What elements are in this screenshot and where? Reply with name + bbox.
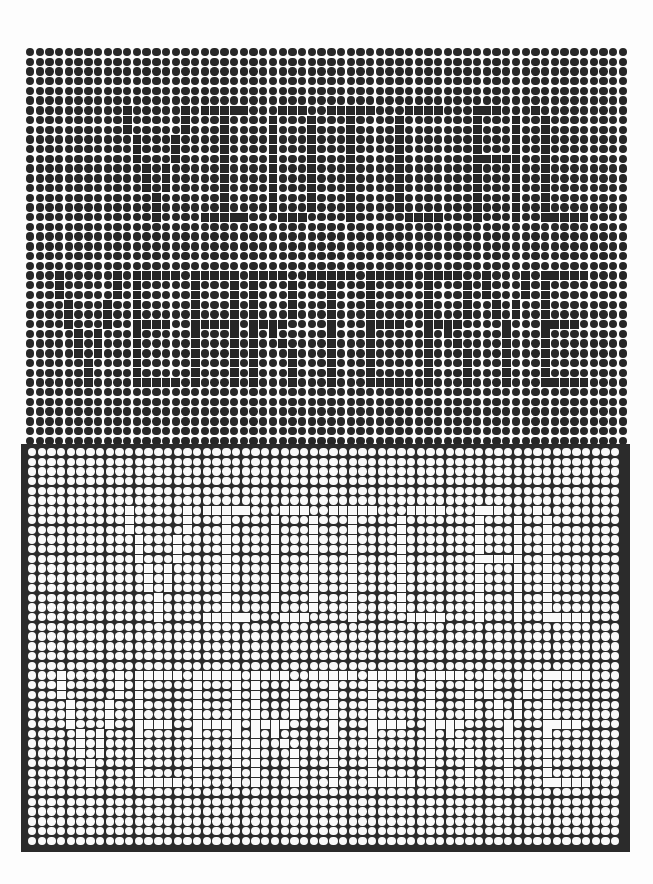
grid-square (397, 778, 406, 787)
grid-dot (106, 623, 114, 631)
grid-dot (453, 252, 461, 260)
grid-dot (560, 87, 568, 95)
grid-dot (415, 67, 423, 75)
grid-dot (74, 388, 82, 396)
grid-dot (55, 145, 63, 153)
grid-dot (269, 87, 277, 95)
grid-dot (494, 594, 502, 602)
grid-dot (339, 817, 347, 825)
grid-dot (290, 526, 298, 534)
grid-square (327, 359, 336, 368)
grid-dot (28, 701, 36, 709)
grid-dot (281, 681, 289, 689)
grid-dot (240, 194, 248, 202)
grid-dot (261, 613, 269, 621)
grid-dot (553, 506, 561, 514)
grid-square (230, 339, 239, 348)
grid-dot (38, 788, 46, 796)
grid-dot (560, 174, 568, 182)
grid-dot (123, 194, 131, 202)
grid-dot (463, 223, 471, 231)
grid-square (424, 349, 433, 358)
grid-dot (455, 564, 463, 572)
grid-dot (339, 496, 347, 504)
grid-dot (317, 116, 325, 124)
grid-dot (203, 759, 211, 767)
grid-square (171, 135, 180, 144)
grid-dot (135, 516, 143, 524)
grid-dot (45, 87, 53, 95)
grid-dot (387, 701, 395, 709)
grid-dot (405, 407, 413, 415)
grid-dot (123, 339, 131, 347)
grid-dot (45, 369, 53, 377)
grid-dot (172, 174, 180, 182)
grid-square (475, 545, 484, 554)
grid-dot (562, 623, 570, 631)
grid-dot (551, 174, 559, 182)
grid-dot (424, 252, 432, 260)
grid-square (473, 193, 482, 202)
grid-dot (376, 164, 384, 172)
grid-square (514, 564, 523, 573)
grid-square (541, 155, 550, 164)
grid-dot (514, 720, 522, 728)
grid-dot (279, 145, 287, 153)
grid-square (319, 671, 328, 680)
grid-dot (387, 798, 395, 806)
grid-dot (86, 477, 94, 485)
grid-dot (172, 398, 180, 406)
grid-square (378, 720, 387, 729)
grid-dot (339, 652, 347, 660)
grid-dot (337, 164, 345, 172)
grid-dot (26, 242, 34, 250)
grid-square (135, 535, 144, 544)
grid-dot (288, 77, 296, 85)
grid-dot (453, 407, 461, 415)
grid-square (269, 193, 278, 202)
grid-dot (319, 535, 327, 543)
grid-dot (181, 271, 189, 279)
grid-dot (104, 232, 112, 240)
grid-dot (251, 817, 259, 825)
grid-dot (609, 126, 617, 134)
grid-dot (397, 817, 405, 825)
grid-dot (592, 584, 600, 592)
grid-dot (444, 106, 452, 114)
grid-dot (193, 496, 201, 504)
grid-dot (162, 96, 170, 104)
grid-dot (356, 310, 364, 318)
grid-dot (319, 788, 327, 796)
grid-square (475, 574, 484, 583)
grid-dot (337, 135, 345, 143)
grid-dot (28, 652, 36, 660)
grid-dot (512, 252, 520, 260)
grid-dot (590, 427, 598, 435)
grid-dot (611, 574, 619, 582)
grid-dot (395, 339, 403, 347)
grid-dot (444, 96, 452, 104)
grid-dot (113, 126, 121, 134)
grid-dot (26, 232, 34, 240)
grid-dot (259, 106, 267, 114)
grid-square (368, 749, 377, 758)
grid-dot (397, 467, 405, 475)
grid-dot (36, 388, 44, 396)
grid-dot (201, 407, 209, 415)
grid-dot (47, 739, 55, 747)
grid-dot (310, 458, 318, 466)
grid-dot (405, 359, 413, 367)
grid-dot (453, 281, 461, 289)
grid-dot (125, 827, 133, 835)
grid-square (173, 545, 182, 554)
grid-dot (599, 155, 607, 163)
grid-square (562, 613, 571, 622)
grid-dot (290, 545, 298, 553)
grid-square (512, 125, 521, 134)
grid-dot (86, 662, 94, 670)
grid-dot (162, 155, 170, 163)
grid-dot (36, 291, 44, 299)
grid-dot (387, 477, 395, 485)
grid-dot (570, 116, 578, 124)
grid-dot (65, 398, 73, 406)
